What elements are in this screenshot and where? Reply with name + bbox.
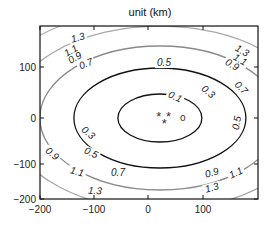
- contour-label: 1.1: [69, 164, 85, 178]
- x-tick-label: 0: [145, 204, 151, 215]
- chart-title: unit (km): [129, 6, 172, 18]
- contour-chart: unit (km) 1.31.10.90.70.51.31.10.90.70.3…: [0, 0, 270, 229]
- y-tick-label: 100: [19, 62, 36, 73]
- asterisk-marker: *: [156, 109, 161, 124]
- contour-0.7: [8, 26, 270, 210]
- asterisk-marker: *: [162, 116, 167, 131]
- y-tick-label: 0: [30, 113, 36, 124]
- data-markers: ***o: [156, 109, 186, 131]
- contour-label: 0.5: [230, 115, 243, 131]
- x-tick-label: −200: [29, 204, 52, 215]
- y-tick-label: −200: [13, 194, 36, 205]
- x-tick-label: 100: [195, 204, 212, 215]
- x-tick-label: −100: [83, 204, 106, 215]
- asterisk-marker: *: [166, 109, 171, 124]
- contour-label: 1.3: [88, 184, 103, 196]
- contour-label: 0.5: [157, 57, 171, 68]
- contour-label: 0.7: [111, 167, 125, 178]
- circle-marker: o: [180, 112, 186, 123]
- y-tick-label: −100: [13, 159, 36, 170]
